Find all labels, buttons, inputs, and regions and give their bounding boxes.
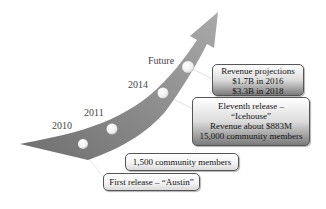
callout-line: 1,500 community members [126, 157, 238, 167]
milestone-label-future: Future [148, 55, 174, 66]
milestone-label-2011: 2011 [84, 107, 104, 118]
arrow-body [20, 12, 218, 160]
milestone-dot-2011 [107, 124, 118, 135]
callout-line: Revenue about $883M [193, 121, 309, 131]
callout-line: First release – “Austin” [104, 177, 199, 187]
milestone-label-2010: 2010 [52, 120, 72, 131]
callout-first-release: First release – “Austin” [103, 173, 200, 191]
callout-line: $3.3B in 2018 [213, 86, 303, 96]
callout-line: “Icehouse” [193, 111, 309, 121]
callout-line: Eleventh release – [193, 101, 309, 111]
milestone-dot-2010 [78, 139, 88, 149]
milestone-label-2014: 2014 [128, 79, 148, 90]
milestone-dot-future [182, 61, 194, 73]
callout-eleventh-release: Eleventh release – “Icehouse” Revenue ab… [192, 97, 310, 146]
callout-1500-community: 1,500 community members [125, 153, 239, 171]
callout-line: Revenue projections [213, 66, 303, 76]
callout-revenue-projections: Revenue projections $1.7B in 2016 $3.3B … [212, 64, 304, 96]
callout-line: $1.7B in 2016 [213, 76, 303, 86]
callout-line: 15,000 community members [193, 131, 309, 141]
milestone-dot-2014 [158, 88, 169, 99]
